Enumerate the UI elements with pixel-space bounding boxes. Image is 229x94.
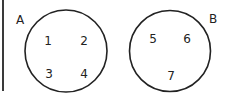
set-a-label: A: [16, 13, 25, 27]
set-a-element: 3: [45, 67, 53, 81]
set-a-element: 4: [80, 67, 88, 81]
set-b-label: B: [209, 12, 217, 26]
set-a-circle: [25, 10, 107, 92]
set-a-element: 2: [80, 34, 88, 48]
set-b-element: 7: [167, 69, 175, 83]
set-a-element: 1: [44, 34, 52, 48]
set-b-element: 6: [183, 32, 191, 46]
set-diagram: A 1 2 3 4 B 5 6 7: [0, 0, 229, 94]
set-b-element: 5: [149, 32, 157, 46]
set-b: B 5 6 7: [130, 11, 218, 92]
set-a: A 1 2 3 4: [16, 10, 107, 92]
